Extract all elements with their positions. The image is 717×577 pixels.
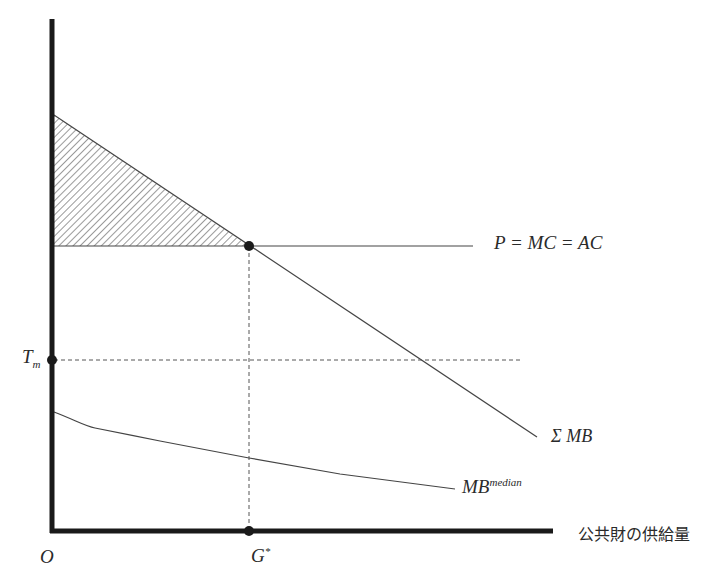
x-axis-label: 公共財の供給量 [578, 521, 690, 545]
x-marker-main: G [251, 545, 265, 566]
g-star-point [244, 526, 254, 536]
public-goods-diagram [0, 0, 717, 577]
sum-mb-label: Σ MB [551, 426, 592, 447]
y-marker-main: T [22, 346, 33, 367]
tm-point [47, 355, 57, 365]
equilibrium-point [244, 241, 254, 251]
median-mb-curve [54, 412, 455, 489]
sum-mb-line [54, 115, 537, 437]
y-marker-label: Tm [22, 346, 41, 370]
x-marker-sup: * [265, 545, 271, 557]
median-mb-sup: median [489, 476, 521, 488]
x-marker-label: G* [251, 545, 270, 567]
supply-line-label: P = MC = AC [494, 232, 602, 254]
origin-label: O [40, 546, 54, 568]
median-mb-label: MBmedian [462, 476, 522, 498]
median-mb-main: MB [462, 476, 489, 497]
y-marker-sub: m [33, 358, 41, 370]
